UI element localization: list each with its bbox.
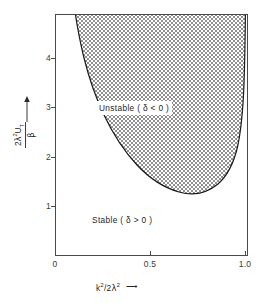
y-tick-2 xyxy=(51,157,56,158)
x-tick-1p0 xyxy=(245,251,246,256)
y-axis-title-u-subscript: T xyxy=(19,124,25,127)
y-axis-title-two: 2 xyxy=(13,141,23,146)
x-axis-title: k2/2λ2⟶ xyxy=(96,281,137,293)
y-axis-title-u: U xyxy=(13,127,23,133)
y-axis-title-denominator: β xyxy=(26,122,37,148)
x-axis-arrow-icon: ⟶ xyxy=(126,281,137,291)
right-spine-line xyxy=(247,14,248,256)
y-axis-arrow-icon xyxy=(23,96,31,122)
y-axis-title-fraction: 2λ2UT β xyxy=(14,122,36,148)
y-ticklabel-2: 2 xyxy=(46,152,51,162)
y-axis-title: 2λ2UT β xyxy=(12,124,42,146)
y-ticklabel-3: 3 xyxy=(46,102,51,112)
x-axis-title-lambda-exponent: 2 xyxy=(117,282,120,288)
top-spine-line xyxy=(55,14,248,15)
stability-diagram-figure: 4 3 2 1 0 0.5 1.0 Unstable ( δ < 0 ) Sta… xyxy=(0,0,265,303)
y-axis-title-numerator: 2λ2UT xyxy=(14,122,26,148)
y-ticklabel-4: 4 xyxy=(46,53,51,63)
y-tick-1 xyxy=(51,206,56,207)
x-tick-0 xyxy=(55,251,56,256)
stable-region-label: Stable ( δ > 0 ) xyxy=(92,215,152,225)
unstable-region-label: Unstable ( δ < 0 ) xyxy=(96,101,172,115)
x-ticklabel-1p0: 1.0 xyxy=(239,259,252,269)
x-ticklabel-0: 0 xyxy=(52,259,57,269)
x-ticklabel-0p5: 0.5 xyxy=(144,259,157,269)
y-axis-title-lambda-exponent: 2 xyxy=(12,133,18,136)
x-tick-0p5 xyxy=(150,251,151,256)
x-axis-line xyxy=(55,255,248,256)
y-tick-4 xyxy=(51,58,56,59)
y-axis-title-lambda: λ xyxy=(13,137,23,142)
y-axis-line xyxy=(55,14,56,256)
y-tick-3 xyxy=(51,107,56,108)
y-ticklabel-1: 1 xyxy=(46,201,51,211)
